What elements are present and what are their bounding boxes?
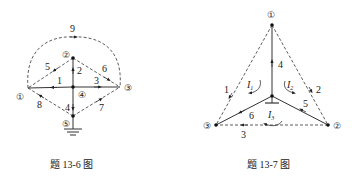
branch-label: 4 xyxy=(65,102,70,113)
branch-3: 3 xyxy=(216,125,328,140)
branch-label: 5 xyxy=(303,98,308,109)
branch-4: 4 xyxy=(65,87,73,116)
branch-label: 4 xyxy=(278,59,283,70)
circuit-graphs-canvas: 9 5 6 8 7 1 xyxy=(0,0,354,181)
loop-current-I2: I2 xyxy=(284,79,294,93)
figure-13-6: 9 5 6 8 7 1 xyxy=(16,23,132,170)
arrow-icon xyxy=(104,77,109,80)
figure-caption: 题 13-6 图 xyxy=(50,159,93,170)
figure-caption: 题 13-7 图 xyxy=(247,159,290,170)
branch-1: 1 xyxy=(28,75,73,88)
branch-label: 6 xyxy=(249,110,254,121)
node-label-4: ④ xyxy=(78,90,86,100)
branch-label: 1 xyxy=(224,84,229,95)
node-label-3: ③ xyxy=(124,83,132,93)
node-dot xyxy=(326,123,330,127)
branch-2: 2 xyxy=(73,58,82,87)
branch-label: 2 xyxy=(77,65,82,76)
figure-13-7: 1 2 3 4 5 6 xyxy=(203,10,341,170)
branch-label: 8 xyxy=(37,99,42,110)
branch-label: 3 xyxy=(94,75,99,86)
node-label-2: ② xyxy=(62,50,70,60)
branch-label: 6 xyxy=(102,63,107,74)
node-dot xyxy=(71,85,75,89)
node-label-5: ⑤ xyxy=(62,119,70,129)
arrow-icon xyxy=(54,68,58,71)
branch-3: 3 xyxy=(73,75,120,87)
loop-current-label: I2 xyxy=(286,79,293,91)
branch-label: 5 xyxy=(45,61,50,72)
branch-5: 5 xyxy=(28,58,73,88)
node-dot xyxy=(71,114,75,118)
branch-label: 3 xyxy=(241,129,246,140)
branch-label: 9 xyxy=(70,23,75,34)
node-dot xyxy=(270,94,274,98)
loop-current-I1: I1 xyxy=(246,79,261,93)
branch-4: 4 xyxy=(272,25,283,96)
node-label-3: ③ xyxy=(203,121,211,131)
node-dot xyxy=(270,23,274,27)
clockwise-arrow-icon xyxy=(265,121,282,126)
branch-label: 1 xyxy=(57,75,62,86)
node-label-1: ① xyxy=(267,10,275,20)
arrow-icon xyxy=(40,96,44,99)
loop-current-I3: I3 xyxy=(265,109,282,126)
loop-current-label: I3 xyxy=(267,109,274,121)
branch-label: 7 xyxy=(99,102,104,113)
node-dot xyxy=(71,56,75,60)
node-label-1: ① xyxy=(16,92,24,102)
node-label-2: ② xyxy=(333,121,341,131)
node-dot xyxy=(214,123,218,127)
arrow-icon xyxy=(309,87,312,92)
loop-current-label: I1 xyxy=(246,79,253,91)
arrow-icon xyxy=(240,110,245,113)
branch-label: 2 xyxy=(316,84,321,95)
